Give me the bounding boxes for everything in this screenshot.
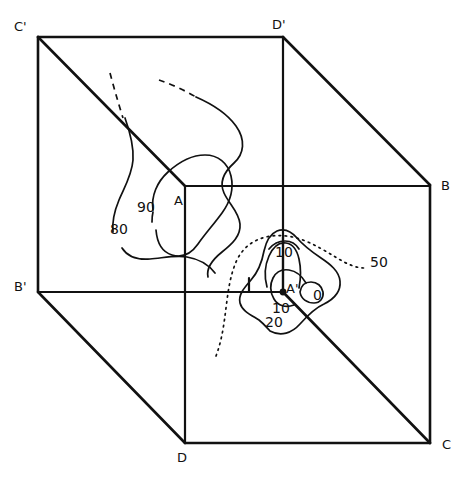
vertex-label-b: B (441, 178, 450, 193)
contour-80-curve (113, 118, 133, 232)
contour-dashed-top-segment (159, 80, 196, 97)
contour-label-50: 50 (370, 254, 388, 270)
contour-group-upper-left (110, 73, 243, 277)
cube-edge-diagonal-aprime-c (283, 292, 430, 443)
vertex-label-c-prime: C' (14, 19, 27, 34)
vertex-label-a-prime: A' (286, 281, 298, 296)
vertex-label-d-prime: D' (272, 17, 286, 32)
contour-label-0: 0 (313, 287, 322, 303)
figure-root: C' D' B A B' A' D C 90 80 50 10 0 10 20 (0, 0, 470, 479)
figure-caption (0, 462, 470, 479)
contour-label-20: 20 (265, 314, 283, 330)
contour-label-10-upper: 10 (275, 244, 293, 260)
cube-edge-bottom-bprime-d (38, 292, 185, 443)
cube-edge-diagonal-cprime-a (38, 37, 185, 186)
vertex-label-a: A (174, 193, 183, 208)
contour-label-80: 80 (110, 221, 128, 237)
contour-90-loop (153, 155, 232, 256)
contour-label-90: 90 (137, 199, 155, 215)
contour-80-lower-hook (122, 248, 215, 273)
cube-contour-diagram: C' D' B A B' A' D C 90 80 50 10 0 10 20 (0, 0, 470, 479)
cube-edge-diagonal-dprime-b (283, 37, 430, 185)
vertex-label-c: C (442, 437, 451, 452)
vertex-label-b-prime: B' (14, 279, 27, 294)
